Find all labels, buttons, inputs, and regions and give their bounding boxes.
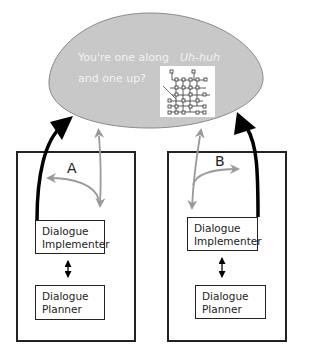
utterance-line-2: and one up? — [78, 72, 146, 85]
network-figure — [160, 66, 215, 117]
reply-text: Uh-huh — [180, 51, 220, 64]
utterance-line-1: You're one along — [77, 51, 169, 64]
speech-bubble — [49, 13, 263, 128]
agent-b-curved-arrow — [193, 169, 238, 185]
agent-a-perception-arrow — [99, 136, 101, 206]
agent-b-perception-arrow — [192, 136, 200, 208]
agent-b-output-arrow — [234, 112, 258, 217]
agent-a-curved-arrow — [48, 178, 99, 200]
agent-a-output-arrow — [37, 116, 73, 220]
